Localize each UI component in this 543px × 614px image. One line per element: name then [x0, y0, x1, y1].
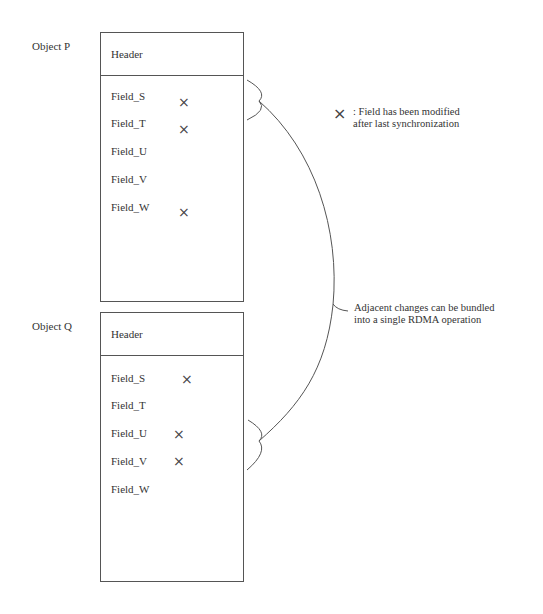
annotation-line-2: into a single RDMA operation — [354, 314, 495, 326]
legend-mark-icon: × — [333, 106, 346, 122]
legend-line-1: : Field has been modified — [353, 106, 460, 118]
legend-text: : Field has been modified after last syn… — [353, 106, 460, 130]
bundle-annotation: Adjacent changes can be bundled into a s… — [354, 302, 495, 326]
legend-line-2: after last synchronization — [353, 118, 460, 130]
annotation-line-1: Adjacent changes can be bundled — [354, 302, 495, 314]
